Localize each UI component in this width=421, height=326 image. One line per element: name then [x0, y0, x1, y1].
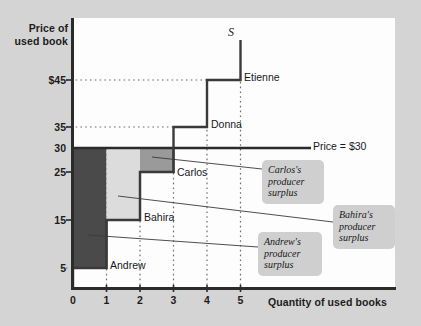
callout-bahira-line2: producer: [339, 221, 389, 233]
callout-andrew-line3: surplus: [264, 259, 316, 271]
ytick-label-25: 25: [24, 166, 66, 178]
callout-bahira-surplus: Bahira's producer surplus: [333, 205, 395, 249]
callout-andrew-line2: producer: [264, 248, 316, 260]
ytick-label-15-wrap: 15: [24, 214, 66, 226]
ytick-label-15: 15: [24, 214, 66, 226]
xtick-label-1: 1: [97, 294, 117, 306]
xtick-label-0: 0: [63, 294, 83, 306]
ytick-label-5: 5: [24, 262, 66, 274]
y-axis-title: Price of used book: [6, 22, 68, 47]
surplus-region-carlos: [140, 148, 174, 172]
x-axis-title: Quantity of used books: [268, 296, 416, 309]
ytick-label-25-wrap: 25: [24, 166, 66, 178]
callout-carlos-line1: Carlos's: [268, 164, 318, 176]
callout-andrew-surplus: Andrew's producer surplus: [258, 232, 322, 276]
callout-bahira-line3: surplus: [339, 232, 389, 244]
seller-label-donna: Donna: [211, 118, 242, 130]
ytick-label-30: 30: [24, 142, 66, 154]
ytick-label-45-wrap: $45: [24, 74, 66, 86]
xtick-label-5: 5: [231, 294, 251, 306]
xtick-label-4: 4: [197, 294, 217, 306]
callout-bahira-line1: Bahira's: [339, 209, 389, 221]
supply-curve-label: S: [228, 25, 234, 40]
ytick-label-35-wrap: 35: [24, 121, 66, 133]
callout-carlos-surplus: Carlos's producer surplus: [262, 160, 324, 204]
producer-surplus-figure: Price of used book Quantity of used book…: [0, 0, 421, 326]
price-line-label: Price = $30: [313, 140, 366, 152]
surplus-region-andrew: [73, 148, 107, 268]
seller-label-etienne: Etienne: [244, 71, 280, 83]
seller-label-carlos: Carlos: [177, 166, 207, 178]
xtick-label-3: 3: [164, 294, 184, 306]
ytick-label-45: $45: [24, 74, 66, 86]
surplus-region-bahira: [107, 148, 141, 220]
ytick-label-35: 35: [24, 121, 66, 133]
ytick-label-30-wrap: 30: [24, 142, 66, 154]
callout-carlos-line2: producer: [268, 176, 318, 188]
ytick-label-5-wrap: 5: [24, 262, 66, 274]
callout-andrew-line1: Andrew's: [264, 236, 316, 248]
chart-canvas: [0, 0, 421, 326]
xtick-label-2: 2: [130, 294, 150, 306]
seller-label-bahira: Bahira: [144, 211, 174, 223]
seller-label-andrew: Andrew: [110, 259, 146, 271]
callout-carlos-line3: surplus: [268, 187, 318, 199]
